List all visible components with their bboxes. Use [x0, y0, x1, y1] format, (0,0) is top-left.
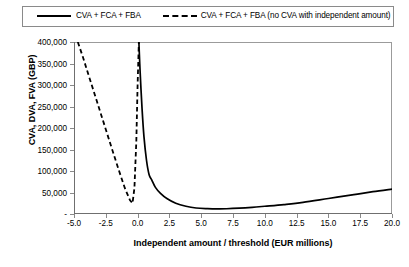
y-tick-label: - — [21, 210, 74, 219]
chart-figure: CVA + FCA + FBA CVA + FCA + FBA (no CVA … — [0, 0, 409, 267]
x-tick-label: 10.0 — [257, 219, 273, 228]
x-tick-label: 12.5 — [289, 219, 305, 228]
x-tick-label: 20.0 — [384, 219, 400, 228]
x-tick-mark — [297, 214, 298, 218]
y-tick-label: 200,000 — [21, 124, 74, 133]
x-tick-mark — [138, 214, 139, 218]
legend-entry-dashed: CVA + FCA + FBA (no CVA with independent… — [163, 12, 391, 20]
x-tick-label: 7.5 — [227, 219, 238, 228]
x-tick-label: 0.0 — [132, 219, 143, 228]
x-tick-mark — [360, 214, 361, 218]
y-tick-label: 150,000 — [21, 145, 74, 154]
series-line-1 — [139, 42, 392, 209]
x-tick-label: 17.5 — [352, 219, 368, 228]
series-plot — [74, 42, 392, 214]
y-tick-label: 300,000 — [21, 81, 74, 90]
x-tick-mark — [233, 214, 234, 218]
chart-legend: CVA + FCA + FBA CVA + FCA + FBA (no CVA … — [22, 6, 394, 27]
legend-entry-solid: CVA + FCA + FBA — [37, 12, 141, 20]
x-tick-mark — [265, 214, 266, 218]
x-tick-mark — [169, 214, 170, 218]
y-tick-label: 50,000 — [21, 188, 74, 197]
x-tick-mark — [106, 214, 107, 218]
legend-swatch-solid-icon — [37, 15, 71, 17]
x-tick-label: -5.0 — [67, 219, 81, 228]
plot-area: 400,000350,000300,000250,000200,000150,0… — [74, 42, 392, 214]
x-axis-title: Independent amount / threshold (EUR mill… — [74, 238, 392, 248]
y-tick-label: 100,000 — [21, 167, 74, 176]
x-tick-mark — [392, 214, 393, 218]
x-tick-mark — [74, 214, 75, 218]
y-tick-label: 250,000 — [21, 102, 74, 111]
y-tick-label: 400,000 — [21, 38, 74, 47]
x-tick-label: 2.5 — [164, 219, 175, 228]
x-tick-label: 5.0 — [195, 219, 206, 228]
x-tick-mark — [328, 214, 329, 218]
y-tick-label: 350,000 — [21, 59, 74, 68]
legend-label-solid: CVA + FCA + FBA — [76, 12, 141, 20]
legend-label-dashed: CVA + FCA + FBA (no CVA with independent… — [201, 12, 391, 20]
legend-swatch-dashed-icon — [163, 15, 197, 17]
series-line-2 — [78, 42, 139, 203]
x-tick-label: -2.5 — [99, 219, 113, 228]
x-tick-mark — [201, 214, 202, 218]
x-tick-label: 15.0 — [320, 219, 336, 228]
